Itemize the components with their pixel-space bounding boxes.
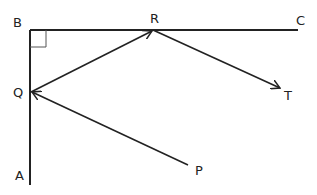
label-A: A <box>15 168 24 183</box>
arrow-RT <box>153 30 280 88</box>
label-R: R <box>150 11 159 26</box>
label-Q: Q <box>13 85 23 100</box>
label-P: P <box>195 163 203 178</box>
label-T: T <box>283 88 292 103</box>
label-B: B <box>13 15 22 30</box>
geometry-diagram: B R C Q T P A <box>0 0 317 195</box>
arrow-QR <box>31 31 152 92</box>
right-angle-marker <box>30 30 46 47</box>
label-C: C <box>296 13 305 28</box>
arrow-PQ <box>32 92 188 165</box>
